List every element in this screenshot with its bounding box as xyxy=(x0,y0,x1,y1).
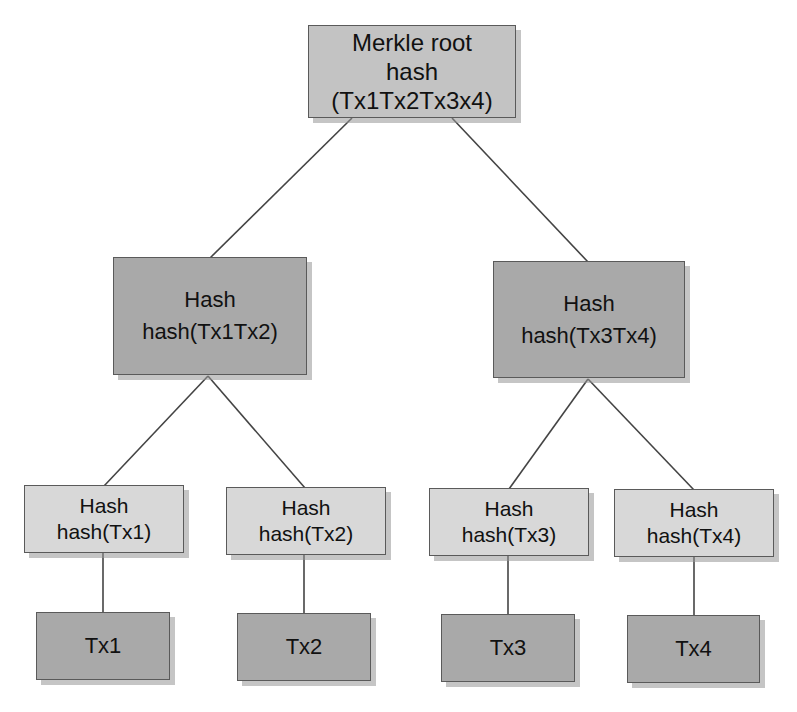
merkle-root-node: Merkle root hash (Tx1Tx2Tx3x4) xyxy=(308,25,516,118)
root-line1: Merkle root xyxy=(352,28,472,57)
hash-node-tx3: Hash hash(Tx3) xyxy=(429,488,589,556)
tx-label: Tx4 xyxy=(675,636,712,662)
hash-node-tx2: Hash hash(Tx2) xyxy=(226,487,386,555)
hash-node-tx1tx2: Hash hash(Tx1Tx2) xyxy=(113,257,307,375)
hash-node-tx4: Hash hash(Tx4) xyxy=(614,489,774,557)
edge-hash12-to-hash2 xyxy=(208,376,305,488)
transaction-node-tx4: Tx4 xyxy=(627,615,760,683)
tx-label: Tx3 xyxy=(490,635,527,661)
node-formula: hash(Tx3Tx4) xyxy=(521,320,657,352)
hash-node-tx1: Hash hash(Tx1) xyxy=(24,485,184,553)
node-formula: hash(Tx1Tx2) xyxy=(142,316,278,348)
node-formula: hash(Tx1) xyxy=(57,519,152,545)
node-formula: hash(Tx2) xyxy=(259,521,354,547)
node-title: Hash xyxy=(563,288,614,320)
tx-label: Tx2 xyxy=(286,634,323,660)
edge-hash12-to-hash1 xyxy=(104,376,208,486)
root-line2: hash xyxy=(386,57,438,86)
hash-node-tx3tx4: Hash hash(Tx3Tx4) xyxy=(493,261,685,378)
node-title: Hash xyxy=(669,497,718,523)
transaction-node-tx3: Tx3 xyxy=(441,614,575,682)
edge-hash34-to-hash4 xyxy=(588,379,694,490)
transaction-node-tx1: Tx1 xyxy=(36,612,170,680)
node-formula: hash(Tx4) xyxy=(647,523,742,549)
edge-root-to-right-hash xyxy=(452,118,588,262)
node-title: Hash xyxy=(484,496,533,522)
node-formula: hash(Tx3) xyxy=(462,522,557,548)
node-title: Hash xyxy=(281,495,330,521)
root-line3: (Tx1Tx2Tx3x4) xyxy=(331,86,492,115)
edge-root-to-left-hash xyxy=(210,118,352,258)
node-title: Hash xyxy=(79,493,128,519)
transaction-node-tx2: Tx2 xyxy=(237,613,371,681)
edge-hash34-to-hash3 xyxy=(509,379,588,489)
tx-label: Tx1 xyxy=(85,633,122,659)
node-title: Hash xyxy=(184,284,235,316)
